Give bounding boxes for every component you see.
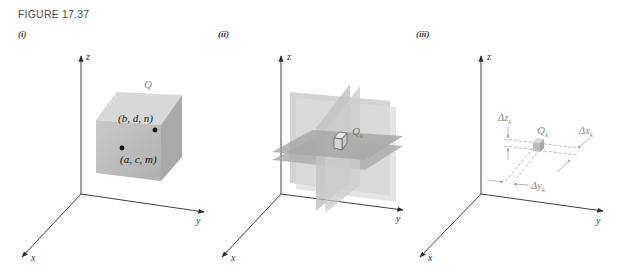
- y-axis: [81, 194, 204, 212]
- z-axis-label: z: [85, 51, 90, 62]
- x-axis: [420, 194, 481, 257]
- y-axis-label: y: [195, 215, 201, 226]
- delta-x-label: Δxk: [578, 125, 594, 139]
- y-axis-label: y: [595, 215, 601, 226]
- panel-ii: z y x Qk: [222, 51, 403, 263]
- panel-i: z y x Q (b, d, n) (a, c, m): [22, 51, 204, 263]
- subbox-qk: [533, 138, 544, 152]
- y-axis-label: y: [395, 213, 401, 224]
- x-axis-label: x: [30, 252, 36, 263]
- axes-iii: z y x: [420, 51, 603, 263]
- y-axis: [481, 194, 603, 211]
- z-axis-label: z: [486, 51, 491, 62]
- solid-label-q: Q: [144, 78, 152, 90]
- x-axis-label: x: [427, 252, 433, 263]
- figure-canvas: z y x Q (b, d, n) (a, c, m) z y x: [0, 0, 624, 273]
- delta-y-label: Δyk: [530, 180, 546, 194]
- point-acm-dot: [120, 146, 125, 151]
- solid-box-q: [96, 92, 182, 181]
- x-axis-label: x: [230, 252, 236, 263]
- x-axis: [22, 194, 81, 257]
- z-axis-label: z: [286, 51, 291, 62]
- point-bdn-dot: [153, 128, 158, 133]
- point-acm-label: (a, c, m): [120, 153, 157, 166]
- panel-iii: z y x Qk Δzk: [420, 51, 603, 263]
- delta-z-label: Δzk: [497, 112, 512, 126]
- subbox-label-qk: Qk: [537, 124, 549, 139]
- x-axis: [222, 194, 281, 257]
- box-front-face: [96, 120, 161, 181]
- point-bdn-label: (b, d, n): [118, 112, 153, 125]
